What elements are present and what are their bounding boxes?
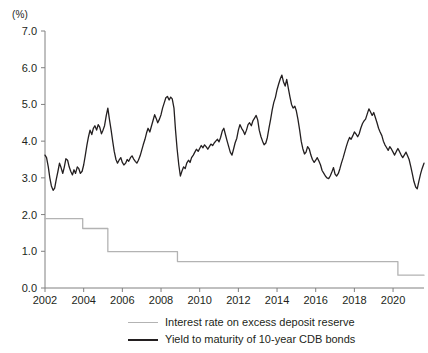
- y-axis-tick-label: 7.0: [22, 25, 37, 37]
- y-axis-tick-label: 0.0: [22, 282, 37, 294]
- y-axis-tick-label: 6.0: [22, 62, 37, 74]
- x-axis-tick-label: 2002: [33, 294, 57, 306]
- legend-swatch-icon-cdb-yield: [128, 339, 158, 341]
- x-axis-tick-label: 2014: [265, 294, 289, 306]
- x-axis-tick-label: 2018: [342, 294, 366, 306]
- x-axis-tick-label: 2016: [303, 294, 327, 306]
- x-axis-tick-label: 2012: [226, 294, 250, 306]
- x-axis-tick-label: 2020: [381, 294, 405, 306]
- series-line-cdb-bond-yield: [45, 75, 424, 190]
- legend-item-cdb-bond-yield: Yield to maturity of 10-year CDB bonds: [128, 332, 355, 347]
- y-axis-tick-label: 1.0: [22, 245, 37, 257]
- y-axis-tick-label: 4.0: [22, 135, 37, 147]
- x-axis: 2002200420062008201020122014201620182020: [33, 288, 424, 306]
- series-group: [45, 75, 424, 275]
- y-axis-tick-label: 2.0: [22, 209, 37, 221]
- chart-legend: Interest rate on excess deposit reserve …: [128, 315, 355, 347]
- series-line-excess-deposit-reserve: [45, 219, 424, 276]
- y-axis-tick-label: 5.0: [22, 98, 37, 110]
- y-axis-tick-label: 3.0: [22, 172, 37, 184]
- line-chart-plot: 0.01.02.03.04.05.06.07.0 200220042006200…: [0, 0, 428, 353]
- y-axis: 0.01.02.03.04.05.06.07.0: [22, 25, 45, 294]
- x-axis-tick-label: 2010: [187, 294, 211, 306]
- legend-item-excess-deposit-reserve: Interest rate on excess deposit reserve: [128, 315, 355, 330]
- legend-label-excess-deposit-reserve: Interest rate on excess deposit reserve: [165, 316, 355, 329]
- chart-figure: (%) 0.01.02.03.04.05.06.07.0 20022004200…: [0, 0, 428, 353]
- x-axis-tick-label: 2006: [110, 294, 134, 306]
- legend-swatch-icon-excess-reserve: [128, 322, 158, 323]
- legend-label-cdb-bond-yield: Yield to maturity of 10-year CDB bonds: [165, 333, 355, 346]
- x-axis-tick-label: 2008: [149, 294, 173, 306]
- x-axis-tick-label: 2004: [71, 294, 95, 306]
